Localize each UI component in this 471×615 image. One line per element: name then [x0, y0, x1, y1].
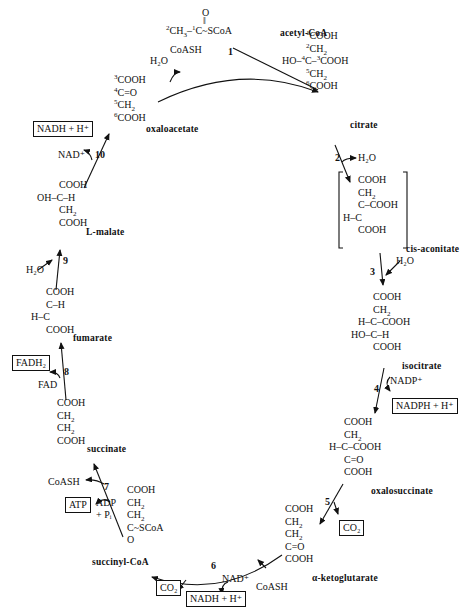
- nadph-box: NADPH + H⁺: [392, 398, 458, 414]
- step-number-9: 9: [63, 255, 68, 266]
- alpha-ketoglutarate-structure: COOH CH2 CH2 C=O COOH: [285, 503, 313, 566]
- cis-aconitate-label: cis-aconitate: [406, 244, 459, 254]
- step-number-3: 3: [370, 266, 375, 277]
- fumarate-structure: COOH C–H H–C COOH: [46, 286, 74, 336]
- step6-coash: CoASH: [256, 581, 288, 592]
- step1-water: H₂O: [150, 55, 168, 66]
- step9-water: H₂O: [26, 264, 44, 275]
- l-malate-structure: COOH OH–C–H CH2 COOH: [59, 179, 87, 229]
- arrow-step-3: [380, 253, 383, 285]
- isocitrate-label: isocitrate: [402, 361, 441, 371]
- step-number-5: 5: [325, 496, 330, 507]
- step-number-8: 8: [64, 366, 69, 377]
- step-number-4: 4: [374, 383, 379, 394]
- co2-box-step5: CO₂: [339, 520, 364, 536]
- cis-aconitate-structure: COOH CH2 C–COOH H–C COOH: [358, 174, 398, 237]
- step-number-10: 10: [95, 149, 105, 160]
- step3-water: H₂O: [396, 255, 414, 266]
- isocitrate-structure: COOH CH2 H–C–COOH HO–C–H COOH: [373, 291, 410, 354]
- arrow-step-1: [158, 79, 318, 102]
- step-number-1: 1: [228, 46, 233, 57]
- succinyl-coa-structure: COOH CH2 CH2 C~SCoA O: [127, 484, 164, 547]
- step4-nadp: NADP⁺: [390, 375, 423, 386]
- succinyl-coa-label: succinyl-CoA: [92, 557, 149, 567]
- step-number-7: 7: [104, 481, 109, 492]
- l-malate-label: L-malate: [86, 227, 125, 237]
- fumarate-label: fumarate: [73, 333, 112, 343]
- oxaloacetate-structure: 3COOH 4C=O 5CH2 6COOH: [114, 74, 146, 124]
- arrow-step-2: [335, 145, 350, 182]
- oxalosuccinate-label: oxalosuccinate: [371, 486, 433, 496]
- step7-pi: + Pᵢ: [96, 509, 111, 520]
- citrate-label: citrate: [350, 120, 378, 130]
- nadh-box-step6: NADH + H⁺: [186, 591, 246, 607]
- fadh2-box: FADH₂: [12, 355, 50, 371]
- nadh-box-step10: NADH + H⁺: [33, 121, 93, 137]
- succinate-structure: COOH CH2 CH2 COOH: [57, 397, 85, 447]
- citrate-structure: 1COOH 2CH2 HO–4C–3COOH 5CH2 6COOH: [306, 30, 348, 93]
- arrow-step-9: [56, 250, 60, 290]
- oxalosuccinate-structure: COOH CH2 H–C–COOH C=O COOH: [344, 416, 381, 479]
- step6-nad: NAD⁺: [222, 573, 249, 584]
- step7-coash: CoASH: [48, 476, 80, 487]
- arrow-step-10: [84, 134, 109, 188]
- step-number-2: 2: [335, 152, 340, 163]
- step8-fad: FAD: [38, 379, 57, 390]
- step7-adp: ADP: [96, 497, 116, 508]
- co2-box-step6: CO₂: [156, 580, 181, 596]
- atp-box: ATP: [65, 497, 91, 513]
- alpha-ketoglutarate-label: α-ketoglutarate: [312, 573, 378, 583]
- step1-coash: CoASH: [170, 44, 202, 55]
- step-number-6: 6: [211, 560, 216, 571]
- arrow-step-5: [320, 484, 343, 524]
- succinate-label: succinate: [87, 444, 126, 454]
- oxaloacetate-label: oxaloacetate: [146, 124, 199, 134]
- step10-nad: NAD⁺: [58, 149, 85, 160]
- step2-water: H₂O: [358, 152, 376, 163]
